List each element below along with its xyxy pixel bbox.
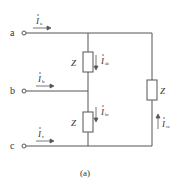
terminal-b-icon [22,89,26,93]
svg-text:c: c [42,134,45,139]
svg-text:ca: ca [166,124,170,129]
figure-caption: (a) [80,168,90,178]
impedance-ca-label: Z [160,86,166,96]
terminal-b-label: b [10,85,15,96]
current-label-ica: I ca [161,117,170,129]
delta-circuit-diagram: a b c I a I b I c I ab I bc I ca Z Z Z (… [0,0,182,191]
terminal-c-icon [22,144,26,148]
current-label-iab: I ab [100,54,109,66]
current-label-ib: I b [37,72,45,84]
impedance-ab-box [83,52,93,72]
impedance-bc-box [83,112,93,132]
current-label-ia: I a [35,14,43,26]
current-label-ic: I c [37,127,45,139]
svg-text:ab: ab [105,61,109,66]
current-label-ibc: I bc [100,105,109,117]
svg-text:bc: bc [105,112,109,117]
terminal-c-label: c [10,140,15,151]
terminal-a-label: a [10,27,15,38]
impedance-bc-label: Z [71,118,77,128]
impedance-ca-box [147,80,157,100]
terminal-a-icon [22,31,26,35]
svg-text:b: b [42,79,45,84]
svg-text:a: a [40,21,43,26]
impedance-ab-label: Z [71,58,77,68]
